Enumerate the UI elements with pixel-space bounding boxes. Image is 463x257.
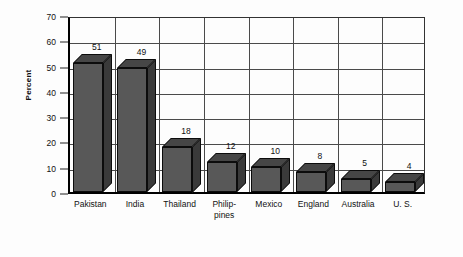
bar-3d[interactable] xyxy=(341,170,380,192)
y-tick-mark xyxy=(60,143,68,144)
x-tick-label: England xyxy=(291,199,336,210)
x-tick-label: Pakistan xyxy=(68,199,113,210)
bar-front-face xyxy=(117,68,147,192)
y-tick-label: 70 xyxy=(36,12,56,22)
y-tick-mark xyxy=(60,194,68,195)
bar-front-face xyxy=(207,162,237,192)
y-tick-mark xyxy=(60,17,68,18)
y-tick-mark xyxy=(60,42,68,43)
y-tick-label: 40 xyxy=(36,88,56,98)
bar-value-label: 18 xyxy=(171,126,201,136)
bar-column[interactable] xyxy=(207,18,246,192)
bar-value-label: 4 xyxy=(394,161,424,171)
x-tick-label: India xyxy=(113,199,158,210)
bar-front-face xyxy=(296,172,326,192)
bar-value-label: 10 xyxy=(260,146,290,156)
y-tick-mark xyxy=(60,168,68,169)
x-tick-label: Mexico xyxy=(247,199,292,210)
x-tick-label: Thailand xyxy=(157,199,202,210)
bar-column[interactable] xyxy=(117,18,156,192)
x-tick-label: U. S. xyxy=(380,199,425,210)
bar-front-face xyxy=(73,63,103,192)
bar-3d[interactable] xyxy=(162,138,201,193)
bar-side-face xyxy=(192,138,201,193)
y-tick-label: 20 xyxy=(36,138,56,148)
bar-front-face xyxy=(162,147,192,193)
bar-value-label: 12 xyxy=(216,141,246,151)
bar-3d[interactable] xyxy=(207,153,246,192)
bar-series: 5149181210854 xyxy=(70,18,424,192)
bar-3d[interactable] xyxy=(296,163,335,192)
bar-3d[interactable] xyxy=(385,173,424,192)
y-tick-label: 0 xyxy=(36,189,56,199)
y-tick-label: 10 xyxy=(36,164,56,174)
bar-side-face xyxy=(147,59,156,192)
y-tick-mark xyxy=(60,67,68,68)
bar-value-label: 5 xyxy=(350,158,380,168)
bar-3d[interactable] xyxy=(251,158,290,192)
bar-chart-figure: Percent 010203040506070 5149181210854 Pa… xyxy=(0,0,463,257)
bar-value-label: 8 xyxy=(305,151,335,161)
y-tick-mark xyxy=(60,118,68,119)
bar-column[interactable] xyxy=(162,18,201,192)
x-axis-labels: PakistanIndiaThailandPhilip- pinesMexico… xyxy=(68,199,425,247)
bar-side-face xyxy=(103,54,112,192)
y-tick-label: 30 xyxy=(36,113,56,123)
plot-area: 5149181210854 xyxy=(68,17,425,194)
y-tick-mark xyxy=(60,92,68,93)
x-tick-label: Philip- pines xyxy=(202,199,247,221)
bar-value-label: 51 xyxy=(82,42,112,52)
bar-column[interactable] xyxy=(251,18,290,192)
x-tick-label: Australia xyxy=(336,199,381,210)
bar-front-face xyxy=(341,179,371,192)
bar-front-face xyxy=(385,182,415,192)
bar-3d[interactable] xyxy=(73,54,112,192)
y-tick-label: 50 xyxy=(36,63,56,73)
bar-3d[interactable] xyxy=(117,59,156,192)
y-tick-label: 60 xyxy=(36,37,56,47)
bar-column[interactable] xyxy=(296,18,335,192)
bar-front-face xyxy=(251,167,281,192)
bar-value-label: 49 xyxy=(126,47,156,57)
